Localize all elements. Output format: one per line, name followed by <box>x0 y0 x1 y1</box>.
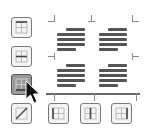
text-line <box>57 79 85 82</box>
text-line <box>57 84 76 87</box>
corner-mark <box>88 21 95 22</box>
text-line <box>99 33 127 36</box>
corner-mark <box>94 93 95 101</box>
text-line <box>108 64 127 67</box>
corner-mark <box>132 56 139 57</box>
text-line <box>57 43 85 46</box>
text-line <box>99 69 127 72</box>
inside-horizontal-border-button[interactable] <box>11 46 32 67</box>
text-line <box>57 38 85 41</box>
mouse-cursor-icon <box>24 80 42 106</box>
text-line <box>99 43 127 46</box>
left-border-icon <box>52 107 65 120</box>
right-border-icon <box>115 107 128 120</box>
text-line <box>99 84 118 87</box>
text-line <box>66 28 85 31</box>
inside-vertical-border-icon <box>84 107 97 120</box>
corner-mark <box>136 93 137 101</box>
text-line <box>99 48 118 51</box>
inside-horizontal-border-icon <box>15 50 28 63</box>
corner-mark <box>54 93 55 101</box>
text-line <box>57 48 76 51</box>
bottom-border-line <box>46 93 140 95</box>
corner-mark <box>132 21 139 22</box>
text-line <box>108 28 127 31</box>
left-border-button[interactable] <box>48 103 69 124</box>
border-preview[interactable] <box>44 8 142 102</box>
corner-mark <box>54 53 55 60</box>
top-border-button[interactable] <box>11 17 32 38</box>
text-line <box>57 74 85 77</box>
text-line <box>57 33 85 36</box>
top-border-icon <box>15 21 28 34</box>
text-line <box>66 64 85 67</box>
inside-vertical-border-button[interactable] <box>80 103 101 124</box>
text-line <box>99 38 127 41</box>
text-line <box>57 69 85 72</box>
diagonal-border-icon <box>15 107 28 120</box>
text-line <box>99 79 127 82</box>
corner-mark <box>54 15 55 22</box>
diagonal-border-button[interactable] <box>11 103 32 124</box>
text-line <box>99 74 127 77</box>
right-border-button[interactable] <box>111 103 132 124</box>
